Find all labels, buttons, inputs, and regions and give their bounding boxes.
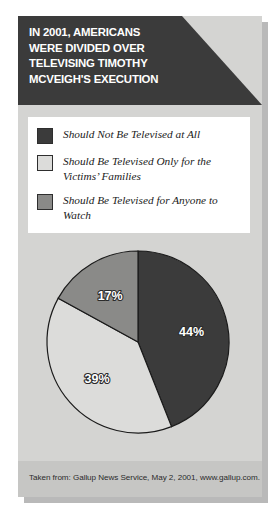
title-line-4: MCVEIGH'S EXECUTION <box>29 72 189 88</box>
legend-label-2: Should Be Televised for Anyone to Watch <box>63 193 243 222</box>
legend-label-1: Should Be Televised Only for the Victims… <box>63 154 243 183</box>
legend-item-not-televised: Should Not Be Televised at All <box>37 127 243 144</box>
pie-slice-label: 17% <box>98 289 123 303</box>
legend-item-anyone-to-watch: Should Be Televised for Anyone to Watch <box>37 193 243 222</box>
pie-slice-label: 44% <box>179 325 204 339</box>
page-title: IN 2001, AMERICANS WERE DIVIDED OVER TEL… <box>29 25 189 87</box>
pie-chart-svg: 44%39%17% <box>18 236 262 448</box>
title-line-3: TELEVISING TIMOTHY <box>29 56 189 72</box>
legend-label-0: Should Not Be Televised at All <box>63 127 243 142</box>
legend-swatch-icon-0 <box>37 128 53 144</box>
legend-item-victims-families: Should Be Televised Only for the Victims… <box>37 154 243 183</box>
title-line-2: WERE DIVIDED OVER <box>29 41 189 57</box>
legend: Should Not Be Televised at All Should Be… <box>28 117 250 233</box>
pie-slice-label: 39% <box>84 372 109 386</box>
footer-bar: Taken from: Gallup News Service, May 2, … <box>18 461 262 497</box>
title-line-1: IN 2001, AMERICANS <box>29 25 189 41</box>
infographic-card: IN 2001, AMERICANS WERE DIVIDED OVER TEL… <box>0 0 278 516</box>
source-attribution: Taken from: Gallup News Service, May 2, … <box>29 473 260 482</box>
pie-chart: 44%39%17% <box>18 236 262 448</box>
legend-swatch-icon-1 <box>37 155 53 171</box>
legend-swatch-icon-2 <box>37 194 53 210</box>
